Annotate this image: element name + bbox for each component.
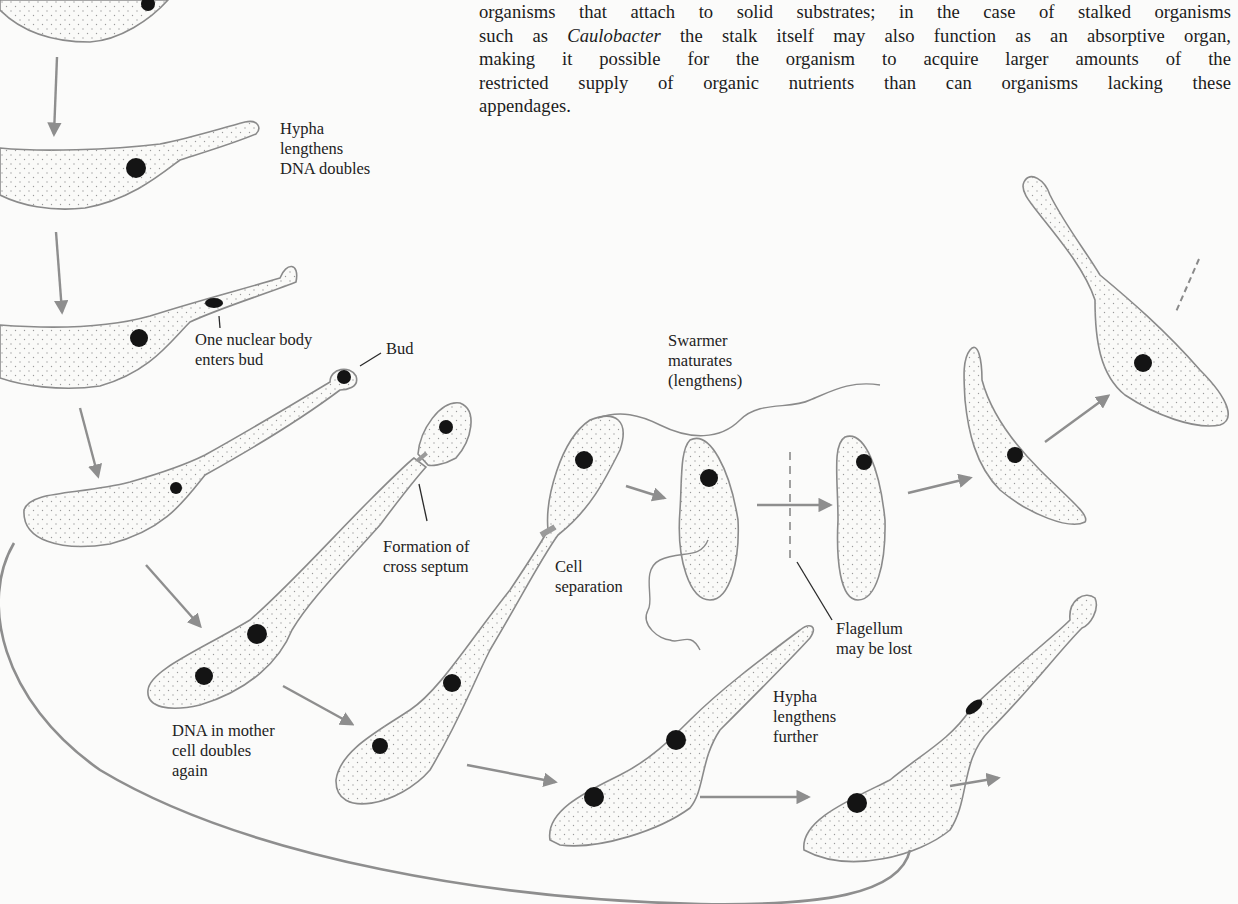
label-cell-separation: Cell separation	[555, 557, 623, 597]
dna-nucleoid-icon	[666, 730, 686, 750]
arrow-icon	[54, 57, 57, 134]
arrow-icon	[56, 232, 62, 312]
leader-line	[419, 484, 427, 521]
label-swarmer-maturates: Swarmer maturates (lengthens)	[668, 331, 742, 391]
dna-nucleoid-icon	[443, 674, 461, 692]
dna-nucleoid-icon	[195, 667, 213, 685]
label-hypha-further: Hypha lengthens further	[773, 687, 836, 747]
dna-nucleoid-icon	[584, 787, 604, 807]
maturing-cell	[964, 347, 1086, 524]
dna-nucleoid-icon	[372, 738, 388, 754]
dna-nucleoid-icon	[700, 469, 718, 487]
arrow-icon	[908, 478, 970, 493]
dna-nucleoid-icon	[439, 420, 453, 434]
label-flagellum-lost: Flagellum may be lost	[836, 619, 912, 659]
label-hypha-lengthens: Hypha lengthens DNA doubles	[280, 119, 370, 179]
arrow-icon	[1045, 396, 1108, 442]
leader-line	[219, 316, 220, 328]
dna-nucleoid-icon	[205, 298, 223, 308]
dna-nucleoid-icon	[130, 329, 148, 347]
label-nuclear-body: One nuclear body enters bud	[195, 330, 312, 370]
cell-stage-2	[0, 266, 297, 388]
dna-nucleoid-icon	[170, 482, 182, 494]
dna-nucleoid-icon	[337, 370, 351, 384]
swarmer-cell-2	[837, 436, 885, 600]
leader-line	[797, 562, 832, 620]
dashed-line	[1175, 259, 1199, 314]
dna-nucleoid-icon	[1007, 447, 1023, 463]
label-cross-septum: Formation of cross septum	[383, 537, 470, 577]
arrow-icon	[80, 408, 98, 476]
dna-nucleoid-icon	[847, 793, 867, 813]
arrow-icon	[146, 565, 200, 626]
arrow-icon	[626, 486, 664, 498]
mature-cell	[1023, 177, 1228, 426]
dna-nucleoid-icon	[247, 624, 267, 644]
arrow-icon	[283, 686, 352, 724]
dna-nucleoid-icon	[575, 451, 593, 469]
label-bud: Bud	[386, 339, 414, 359]
dna-nucleoid-icon	[856, 454, 872, 470]
dna-nucleoid-icon	[1134, 354, 1152, 372]
cell-stage-3	[24, 369, 357, 546]
label-dna-mother-cell: DNA in mother cell doubles again	[172, 721, 275, 781]
leader-line	[360, 353, 381, 366]
cell-stage-0	[0, 0, 168, 42]
dna-nucleoid-icon	[126, 158, 146, 178]
swarmer-cell-1	[646, 438, 738, 650]
arrow-icon	[467, 765, 555, 782]
cell-stage-1	[0, 121, 259, 209]
flagellum	[598, 384, 880, 436]
